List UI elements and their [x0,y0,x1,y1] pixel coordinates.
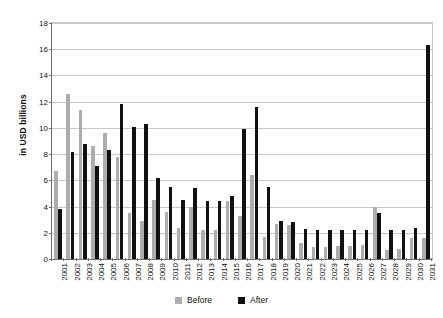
bar-after-2009 [156,178,160,259]
bar-after-2013 [206,201,210,259]
x-tick-mark [333,258,334,261]
y-tick-label: 2 [44,228,48,237]
x-tick-label-2015: 2015 [232,263,241,281]
bar-chart: in USD billions 024681012141618 20012002… [0,0,443,318]
x-tick-mark [137,258,138,261]
bar-before-2019 [275,224,279,259]
x-tick-label-2002: 2002 [73,263,82,281]
bar-before-2015 [226,201,230,259]
x-tick-label-2029: 2029 [404,263,413,281]
bar-before-2011 [177,228,181,259]
x-tick-mark [174,258,175,261]
bar-after-2019 [279,221,283,259]
bar-after-2011 [181,200,185,259]
legend-swatch-before [175,297,182,304]
x-tick-label-2025: 2025 [355,263,364,281]
x-tick-label-2013: 2013 [207,263,216,281]
x-axis-labels: 2001200220032004200520062007200820092010… [51,261,431,293]
x-tick-label-2006: 2006 [122,263,131,281]
bar-group [101,23,113,259]
bar-before-2003 [79,110,83,259]
bar-before-2028 [385,250,389,259]
bar-group [211,23,223,259]
x-tick-label-2022: 2022 [318,263,327,281]
plot-area: 024681012141618 [51,22,433,260]
bar-after-2015 [230,196,234,259]
bar-after-2017 [255,107,259,259]
bar-after-2030 [414,228,418,259]
x-tick-mark [321,258,322,261]
x-tick-mark [63,258,64,261]
bar-group [199,23,211,259]
bar-before-2005 [103,133,107,259]
bar-after-2002 [71,152,75,260]
y-tick-label: 18 [39,19,48,28]
x-tick-label-2021: 2021 [305,263,314,281]
x-tick-mark [125,258,126,261]
bar-after-2026 [365,230,369,259]
x-tick-label-2031: 2031 [428,263,437,281]
x-tick-label-2004: 2004 [97,263,106,281]
bar-after-2010 [169,187,173,259]
bar-group [150,23,162,259]
x-tick-label-2020: 2020 [293,263,302,281]
x-tick-label-2012: 2012 [195,263,204,281]
bar-before-2031 [422,238,426,259]
legend-item-after[interactable]: After [238,295,268,305]
bar-after-2024 [340,230,344,259]
bar-after-2016 [242,129,246,259]
bar-group [309,23,321,259]
x-tick-label-2024: 2024 [342,263,351,281]
x-tick-mark [419,258,420,261]
bar-group [395,23,407,259]
bar-group [64,23,76,259]
bar-group [113,23,125,259]
bar-before-2021 [299,243,303,259]
x-tick-mark [296,258,297,261]
x-tick-mark [198,258,199,261]
bar-before-2006 [116,157,120,259]
bar-after-2006 [120,104,124,259]
bar-after-2008 [144,124,148,259]
legend-item-before[interactable]: Before [175,295,212,305]
bar-before-2013 [201,230,205,259]
x-tick-label-2019: 2019 [281,263,290,281]
x-tick-label-2007: 2007 [134,263,143,281]
x-tick-mark [88,258,89,261]
bar-before-2007 [128,213,132,259]
bar-before-2010 [165,212,169,259]
bar-after-2005 [107,150,111,259]
y-tick-label: 14 [39,71,48,80]
bar-before-2001 [54,171,58,259]
bar-group [77,23,89,259]
legend-swatch-after [238,297,245,304]
x-tick-label-2017: 2017 [256,263,265,281]
bar-after-2004 [95,166,99,259]
bar-before-2027 [373,207,377,259]
bar-before-2004 [91,146,95,259]
bar-group [273,23,285,259]
y-tick-label: 0 [44,255,48,264]
x-tick-mark [112,258,113,261]
x-tick-mark [345,258,346,261]
x-tick-label-2018: 2018 [269,263,278,281]
bar-group [260,23,272,259]
bar-before-2029 [397,249,401,259]
bar-before-2024 [336,246,340,259]
bar-group [126,23,138,259]
bar-before-2017 [250,175,254,259]
x-tick-label-2001: 2001 [60,263,69,281]
bar-group [187,23,199,259]
bar-group [420,23,432,259]
x-tick-label-2009: 2009 [158,263,167,281]
bar-group [224,23,236,259]
y-tick-label: 10 [39,123,48,132]
x-tick-mark [235,258,236,261]
bar-before-2023 [324,247,328,259]
x-tick-mark [394,258,395,261]
bar-after-2007 [132,127,136,259]
x-tick-mark [382,258,383,261]
y-tick-label: 6 [44,176,48,185]
legend-label-before: Before [187,295,212,305]
bar-before-2008 [140,221,144,259]
